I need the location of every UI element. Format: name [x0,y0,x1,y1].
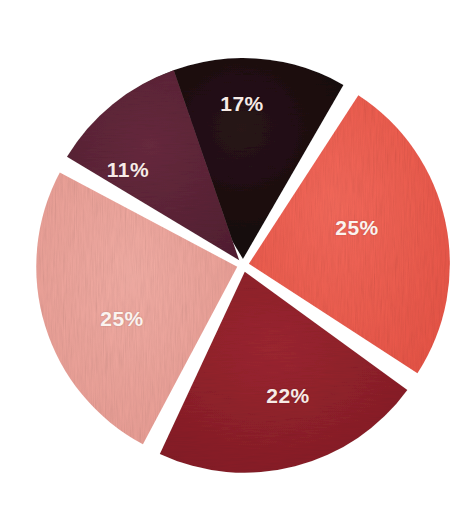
pie-chart-figure: 17% 25% 22% 25% 11% [0,0,468,510]
pie-slices-group [36,58,450,473]
pie-chart-svg [0,0,468,510]
